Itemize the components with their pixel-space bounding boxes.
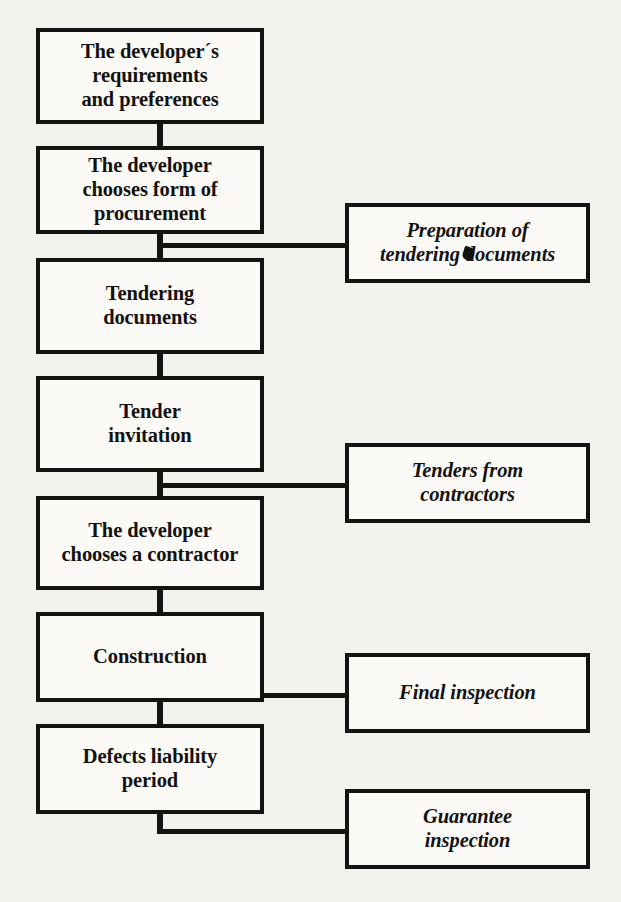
node-preparation-label: Preparation oftendering documents <box>374 219 561 267</box>
node-defects-liability-label: Defects liabilityperiod <box>77 745 223 793</box>
node-construction[interactable]: Construction <box>36 612 264 702</box>
node-guarantee-label: Guaranteeinspection <box>417 805 518 853</box>
connector-tenderdocs-to-invitation <box>157 352 163 378</box>
connector-to-tenders <box>157 483 347 488</box>
node-tender-invitation-label: Tenderinvitation <box>102 400 197 448</box>
node-guarantee-inspection[interactable]: Guaranteeinspection <box>345 789 590 869</box>
connector-to-preparation <box>157 243 347 248</box>
node-procurement-label: The developerchooses form ofprocurement <box>76 154 223 226</box>
node-defects-liability[interactable]: Defects liabilityperiod <box>36 724 264 814</box>
connector-to-guarantee <box>157 829 347 834</box>
node-tendering-documents[interactable]: Tenderingdocuments <box>36 258 264 354</box>
flowchart-canvas: The developer´srequirementsand preferenc… <box>0 0 621 902</box>
connector-requirements-to-procurement <box>157 122 163 148</box>
node-choose-contractor[interactable]: The developerchooses a contractor <box>36 496 264 590</box>
node-construction-label: Construction <box>87 645 213 669</box>
connector-choosecontractor-to-construction <box>157 588 163 614</box>
connector-construction-to-defects <box>157 700 163 726</box>
node-final-inspection-label: Final inspection <box>393 681 542 705</box>
node-tenders-label: Tenders fromcontractors <box>406 459 529 507</box>
node-tenders-from-contractors[interactable]: Tenders fromcontractors <box>345 443 590 523</box>
node-tender-invitation[interactable]: Tenderinvitation <box>36 376 264 472</box>
node-preparation-of-tendering-documents[interactable]: Preparation oftendering documents <box>345 203 590 283</box>
node-procurement[interactable]: The developerchooses form ofprocurement <box>36 146 264 234</box>
node-final-inspection[interactable]: Final inspection <box>345 653 590 733</box>
node-requirements[interactable]: The developer´srequirementsand preferenc… <box>36 28 264 124</box>
node-tendering-documents-label: Tenderingdocuments <box>97 282 203 330</box>
node-requirements-label: The developer´srequirementsand preferenc… <box>75 40 225 112</box>
node-choose-contractor-label: The developerchooses a contractor <box>56 519 245 567</box>
